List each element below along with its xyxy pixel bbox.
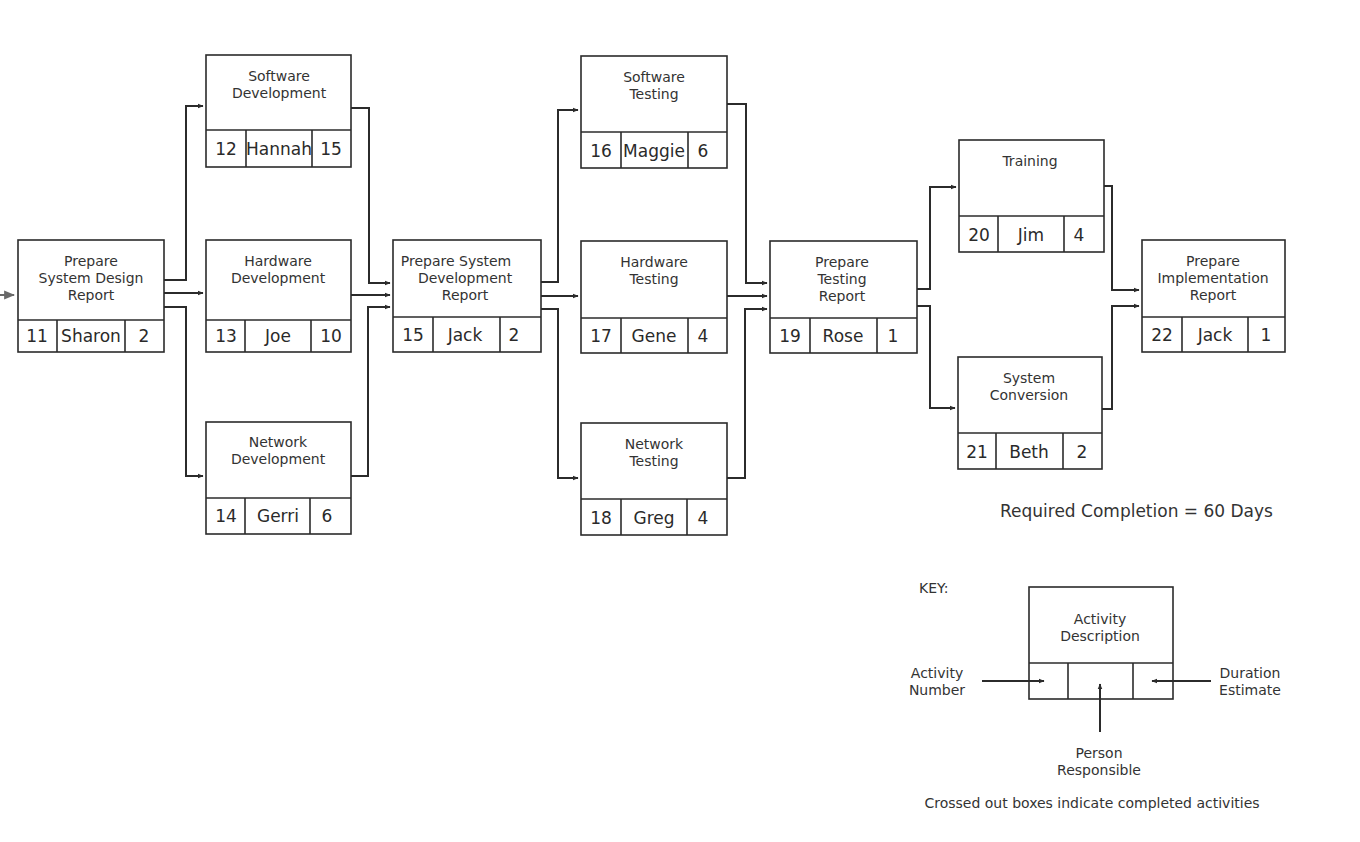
activity-box-16[interactable]: SoftwareTesting 16 Maggie 6 (581, 56, 727, 168)
activity-box-13[interactable]: HardwareDevelopment 13 Joe 10 (206, 240, 351, 352)
activity-box-11[interactable]: PrepareSystem DesignReport 11 Sharon 2 (18, 240, 164, 352)
edge-14-15 (351, 307, 390, 476)
duration-estimate: 4 (1074, 225, 1085, 245)
required-completion-note: Required Completion = 60 Days (1000, 501, 1273, 521)
activity-number: 21 (966, 442, 988, 462)
person-responsible: Sharon (61, 326, 121, 346)
activity-number: 16 (590, 141, 612, 161)
person-responsible: Hannah (246, 139, 312, 159)
network-diagram: PrepareSystem DesignReport 11 Sharon 2 S… (0, 0, 1360, 842)
duration-estimate: 1 (1261, 325, 1272, 345)
activity-box-18[interactable]: NetworkTesting 18 Greg 4 (581, 423, 727, 535)
person-responsible: Gerri (257, 506, 299, 526)
activity-number: 13 (215, 326, 237, 346)
activity-description: HardwareDevelopment (231, 253, 326, 286)
activity-description: NetworkTesting (625, 436, 684, 469)
key-footnote: Crossed out boxes indicate completed act… (924, 795, 1259, 811)
edge-11-12 (164, 106, 203, 280)
edge-15-16 (541, 110, 578, 282)
edge-15-18 (541, 309, 578, 478)
activity-number: 15 (402, 325, 424, 345)
edge-12-15 (351, 108, 390, 283)
activity-number: 11 (26, 326, 48, 346)
person-responsible: Joe (264, 326, 291, 346)
person-responsible: Maggie (623, 141, 685, 161)
edge-19-21 (917, 306, 955, 408)
activity-description: SoftwareTesting (623, 69, 685, 102)
activity-box-14[interactable]: NetworkDevelopment 14 Gerri 6 (206, 422, 351, 534)
duration-estimate: 10 (320, 326, 342, 346)
key-activity-number-label: ActivityNumber (909, 665, 965, 698)
activity-number: 20 (968, 225, 990, 245)
activity-box-22[interactable]: PrepareImplementationReport 22 Jack 1 (1142, 240, 1285, 352)
edge-16-19 (727, 104, 767, 283)
key-duration-estimate-label: DurationEstimate (1219, 665, 1281, 698)
activity-description: HardwareTesting (620, 254, 688, 287)
person-responsible: Greg (633, 508, 674, 528)
duration-estimate: 1 (888, 326, 899, 346)
person-responsible: Jack (1197, 325, 1233, 345)
activity-box-19[interactable]: PrepareTestingReport 19 Rose 1 (770, 241, 917, 353)
edge-18-19 (727, 309, 767, 478)
activity-box-15[interactable]: Prepare SystemDevelopmentReport 15 Jack … (393, 240, 541, 352)
activity-box-20[interactable]: Training 20 Jim 4 (959, 140, 1104, 252)
activity-number: 17 (590, 326, 612, 346)
duration-estimate: 2 (1077, 442, 1088, 462)
person-responsible: Beth (1009, 442, 1049, 462)
person-responsible: Rose (823, 326, 864, 346)
duration-estimate: 6 (698, 141, 709, 161)
duration-estimate: 2 (509, 325, 520, 345)
activity-number: 18 (590, 508, 612, 528)
activity-description: PrepareTestingReport (815, 254, 869, 304)
activity-number: 12 (215, 139, 237, 159)
activity-box-17[interactable]: HardwareTesting 17 Gene 4 (581, 241, 727, 353)
person-responsible: Gene (632, 326, 677, 346)
edge-21-22 (1102, 306, 1139, 409)
activity-box-12[interactable]: SoftwareDevelopment 12 Hannah 15 (206, 55, 351, 167)
edge-11-14 (164, 307, 203, 476)
duration-estimate: 2 (139, 326, 150, 346)
activity-description: Training (1001, 153, 1057, 169)
duration-estimate: 4 (698, 508, 709, 528)
duration-estimate: 15 (320, 139, 342, 159)
duration-estimate: 6 (322, 506, 333, 526)
person-responsible: Jack (447, 325, 483, 345)
edge-20-22 (1104, 186, 1139, 290)
legend-key: KEY: ActivityDescription ActivityNumber … (909, 580, 1281, 811)
edge-19-20 (917, 187, 956, 289)
activity-number: 14 (215, 506, 237, 526)
activity-box-21[interactable]: SystemConversion 21 Beth 2 (958, 357, 1102, 469)
activity-number: 22 (1151, 325, 1173, 345)
key-title: KEY: (919, 580, 948, 596)
person-responsible: Jim (1017, 225, 1044, 245)
duration-estimate: 4 (698, 326, 709, 346)
key-person-responsible-label: PersonResponsible (1057, 745, 1141, 778)
activity-number: 19 (779, 326, 801, 346)
